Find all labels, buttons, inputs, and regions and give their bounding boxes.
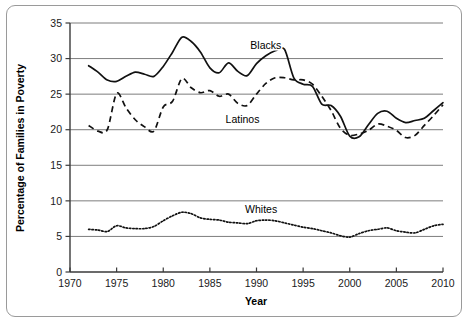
y-tick-label-15: 15: [50, 159, 62, 171]
series-line-whites: [89, 212, 443, 237]
x-tick-label-1985: 1985: [198, 277, 222, 289]
y-axis-title: Percentage of Families in Poverty: [14, 64, 26, 232]
x-tick-label-2010: 2010: [431, 277, 455, 289]
y-tick-label-10: 10: [50, 195, 62, 207]
series-line-latinos: [89, 77, 443, 137]
poverty-rate-line-chart: 05101520253035 1970197519801985199019952…: [0, 0, 471, 325]
y-tick-label-0: 0: [56, 266, 62, 278]
y-tick-labels-group: 05101520253035: [50, 17, 62, 278]
x-tick-label-1975: 1975: [105, 277, 129, 289]
chart-svg: 05101520253035 1970197519801985199019952…: [0, 0, 471, 325]
series-line-blacks: [89, 37, 443, 138]
x-tick-label-1980: 1980: [152, 277, 176, 289]
x-tick-labels-group: 197019751980198519901995200020052010: [58, 277, 455, 289]
series-label-blacks: Blacks: [250, 39, 281, 51]
x-tick-label-2005: 2005: [385, 277, 409, 289]
y-tick-label-35: 35: [50, 17, 62, 29]
x-axis-title: Year: [245, 295, 267, 307]
y-tick-label-5: 5: [56, 230, 62, 242]
x-tick-label-1990: 1990: [245, 277, 269, 289]
x-tick-label-1970: 1970: [58, 277, 82, 289]
y-tick-label-25: 25: [50, 88, 62, 100]
series-label-group: BlacksBlacksLatinosLatinosWhitesWhites: [226, 39, 282, 215]
y-tick-label-30: 30: [50, 52, 62, 64]
series-label-whites: Whites: [245, 203, 277, 215]
y-tick-label-20: 20: [50, 123, 62, 135]
x-tick-label-2000: 2000: [338, 277, 362, 289]
x-tick-label-1995: 1995: [291, 277, 315, 289]
series-label-latinos: Latinos: [226, 113, 260, 125]
